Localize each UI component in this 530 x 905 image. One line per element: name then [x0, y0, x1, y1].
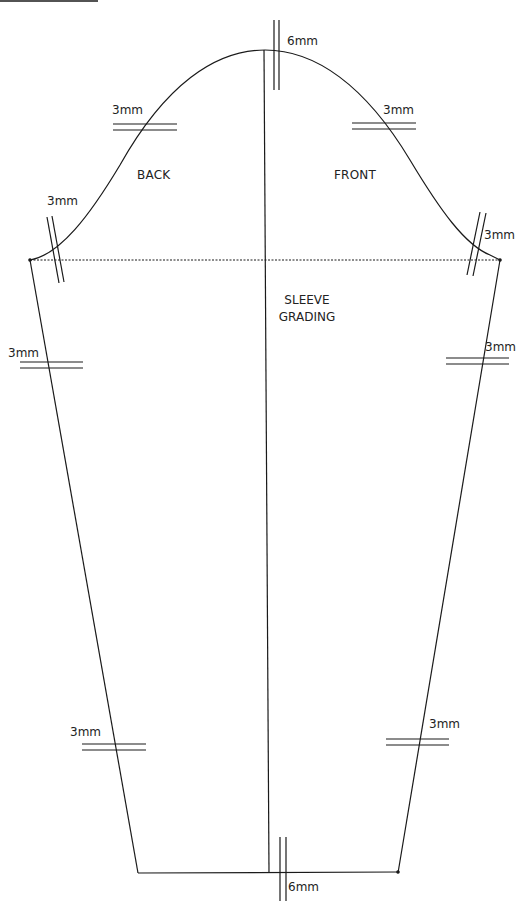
back-region-label: BACK [137, 168, 170, 182]
center-grain-line [264, 50, 269, 873]
crown-grade-mark [274, 20, 279, 90]
wrist-front-grade-mark [386, 739, 449, 745]
cap-front-grade-mark [352, 123, 416, 129]
hem-grade-label: 6mm [288, 880, 319, 894]
crown-grade-label: 6mm [287, 34, 318, 48]
armhole-back-grade-mark [47, 216, 64, 283]
armhole-front-grade-label: 3mm [484, 228, 515, 242]
underarm-front-grade-label: 3mm [485, 340, 516, 354]
cap-front-grade-label: 3mm [383, 103, 414, 117]
sleeve-grading-diagram [0, 0, 530, 905]
armhole-back-grade-label: 3mm [47, 194, 78, 208]
hem-line [138, 872, 398, 873]
cap-back-grade-label: 3mm [112, 103, 143, 117]
diagram-title: SLEEVE GRADING [272, 292, 342, 326]
wrist-back-grade-label: 3mm [70, 725, 101, 739]
underarm-front-grade-mark [446, 358, 509, 364]
diagram-title-line2: GRADING [272, 309, 342, 326]
underarm-back-grade-label: 3mm [8, 346, 39, 360]
underarm-back-grade-mark [20, 362, 83, 368]
hem-grade-mark [280, 837, 286, 901]
diagram-title-line1: SLEEVE [272, 292, 342, 309]
wrist-back-grade-mark [82, 744, 146, 750]
back-underarm-seam [30, 260, 138, 873]
armhole-front-grade-mark [467, 212, 486, 276]
wrist-front-grade-label: 3mm [429, 717, 460, 731]
front-region-label: FRONT [334, 168, 376, 182]
